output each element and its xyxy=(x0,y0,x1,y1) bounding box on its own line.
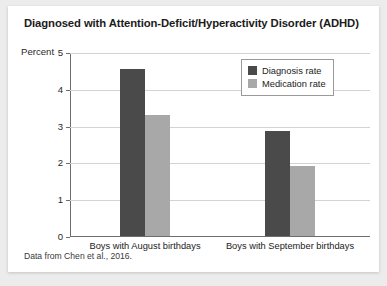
legend-item-medication: Medication rate xyxy=(248,77,326,90)
y-axis-tick-label: 3 xyxy=(58,122,63,132)
x-axis-category-label: Boys with September birthdays xyxy=(226,241,354,251)
bar xyxy=(265,131,290,236)
y-axis-tick xyxy=(66,200,70,201)
legend-swatch-icon xyxy=(248,79,257,88)
source-note: Data from Chen et al., 2016. xyxy=(24,251,132,261)
x-axis-line xyxy=(70,236,370,237)
bar xyxy=(120,69,145,236)
legend-item-label: Medication rate xyxy=(262,79,326,89)
gridline xyxy=(70,53,370,54)
legend-item-diagnosis: Diagnosis rate xyxy=(248,64,326,77)
y-axis-label: Percent xyxy=(21,46,54,57)
y-axis-tick xyxy=(66,53,70,54)
chart-legend: Diagnosis rate Medication rate xyxy=(241,59,334,96)
y-axis-tick-label: 1 xyxy=(58,195,63,205)
y-axis-tick-label: 4 xyxy=(58,85,63,95)
bar xyxy=(290,166,315,236)
legend-item-label: Diagnosis rate xyxy=(262,66,321,76)
y-axis-tick-label: 5 xyxy=(58,48,63,58)
y-axis-tick-label: 0 xyxy=(58,232,63,242)
y-axis-tick xyxy=(66,163,70,164)
chart-card: Diagnosed with Attention-Deficit/Hyperac… xyxy=(8,6,379,272)
gridline xyxy=(70,163,370,164)
y-axis-tick xyxy=(66,127,70,128)
x-axis-category-label: Boys with August birthdays xyxy=(89,241,200,251)
y-axis-line xyxy=(70,53,71,237)
legend-swatch-icon xyxy=(248,66,257,75)
bar xyxy=(145,115,170,236)
y-axis-tick-label: 2 xyxy=(58,159,63,169)
gridline xyxy=(70,127,370,128)
y-axis-tick xyxy=(66,237,70,238)
gridline xyxy=(70,200,370,201)
page-title: Diagnosed with Attention-Deficit/Hyperac… xyxy=(24,17,359,29)
y-axis-tick xyxy=(66,90,70,91)
